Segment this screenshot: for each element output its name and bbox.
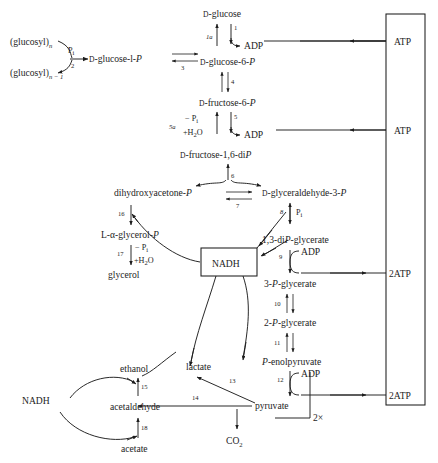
step-number-5a: 5a [169,123,176,130]
metabolite-glucosyl-n-minus-1: (glucosyl)n − 1 [10,67,63,80]
cofactor-pi-step2: Pi [68,46,75,56]
step-number-14: 14 [192,394,199,401]
step-number-18: 18 [141,424,148,431]
cofactor-adp-step9: ADP [301,246,320,257]
step-number-6: 6 [231,172,235,179]
metabolite-ethanol: ethanol [120,363,149,374]
metabolite-glycerol: glycerol [108,269,140,280]
step-number-10: 10 [274,300,281,307]
cofactor-plus-h2o-step5a: +H2O [183,128,203,138]
metabolite-dihydroxyacetone-p: dihydroxyacetone-P [114,187,192,198]
step-number-11: 11 [274,339,280,346]
step-number-4: 4 [231,78,235,85]
atp-entry-4: 2ATP [389,390,411,401]
step-number-9: 9 [279,253,283,260]
nadh-left-label: NADH [22,395,50,406]
metabolite-pyruvate: pyruvate [255,400,289,411]
step-number-5: 5 [234,113,238,120]
cofactor-adp-step1: ADP [244,40,263,51]
step-number-3: 3 [181,64,185,71]
step-number-7: 7 [236,202,240,209]
cofactor-pi-step8: Pi [296,208,303,218]
metabolite-co2: CO2 [226,435,243,448]
atp-entry-3: 2ATP [389,268,411,279]
step-number-1a: 1a [206,33,213,40]
metabolite-p-enolpyruvate: P-enolpyruvate [261,356,321,367]
step-number-12: 12 [277,376,284,383]
metabolite-acetaldehyde: acetaldehyde [110,401,160,412]
metabolite-l-alpha-glycerol-p: L-α-glycerol-P [101,229,159,240]
step-number-2: 2 [71,62,74,69]
metabolite-glucose-6-p: D-glucose-6-P [200,56,255,67]
glycolysis-diagram-svg: (glucosyl)n (glucosyl)n − 1 Pi 2 D-gluco… [0,0,438,463]
metabolite-d-glucose: D-glucose [203,8,241,19]
step-number-13: 13 [229,377,236,384]
cofactor-adp-step5: ADP [244,129,263,140]
cofactor-adp-step12: ADP [301,368,320,379]
step-number-8: 8 [280,208,284,215]
metabolite-glucosyl-n: (glucosyl)n [10,36,53,49]
atp-yield-box [386,14,425,405]
step-number-16: 16 [118,210,125,217]
atp-entry-2: ATP [394,125,411,136]
cofactor-minus-pi-step17: − Pi [135,243,148,253]
atp-entry-1: ATP [394,36,411,47]
metabolite-fructose-6-p: D-fructose-6-P [199,97,256,108]
step-number-1: 1 [234,24,237,31]
step-number-15: 15 [141,383,148,390]
metabolite-3-p-glycerate: 3-P-glycerate [264,278,316,289]
metabolite-glyceraldehyde-3-p: D-glyceraldehyde-3-P [262,187,346,198]
metabolite-fructose-1-6-dip: D-fructose-1,6-diP [180,149,251,160]
multiplier-2x-label: 2× [313,412,323,423]
pathway-diagram-canvas: (glucosyl)n (glucosyl)n − 1 Pi 2 D-gluco… [0,0,438,463]
metabolite-acetate: acetate [121,443,148,454]
cofactor-plus-h2o-step17: +H2O [134,256,154,266]
metabolite-lactate: lactate [186,361,211,372]
metabolite-glucose-1-p: D-glucose-l-P [89,53,142,64]
cofactor-minus-pi-step5a: − Pi [185,114,198,124]
metabolite-2-p-glycerate: 2-P-glycerate [264,317,316,328]
step-number-17: 17 [117,250,124,257]
nadh-pool-label: NADH [212,258,240,269]
metabolite-1-3-dip-glycerate: 1,3-diP-glycerate [262,234,329,245]
